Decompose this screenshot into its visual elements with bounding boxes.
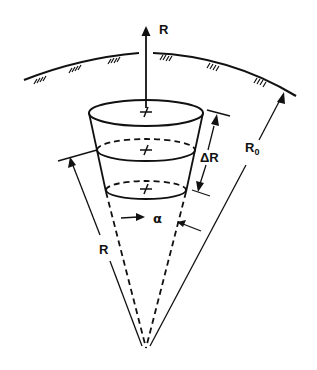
outer-radius-dimension — [150, 92, 285, 346]
radial-axis-arrow — [142, 26, 151, 108]
surface-hatching — [34, 55, 266, 87]
radial-axis-label: R — [159, 22, 169, 37]
cone-volume-diagram: R ΔR R0 — [0, 0, 317, 370]
outer-radius-label: R0 — [245, 140, 259, 157]
delta-r-label: ΔR — [200, 150, 219, 165]
inner-radius-label: R — [99, 242, 109, 257]
outer-radius-sub: 0 — [254, 147, 259, 157]
cone-dashed-sides — [106, 192, 186, 348]
cone-angle-label: α — [153, 211, 162, 226]
